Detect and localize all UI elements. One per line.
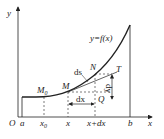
point-n-label: N <box>89 62 97 72</box>
x-axis-label: x <box>147 118 152 128</box>
tick-a-label: a <box>20 118 25 128</box>
curve-label: y=f(x) <box>89 33 113 43</box>
arc-length-diagram: y x O a x0 x x+dx b y=f(x) M0 M N T Q ds… <box>0 0 164 139</box>
tick-x-label: x <box>65 118 70 128</box>
dx-label: dx <box>76 94 86 104</box>
dy-label: dy <box>104 84 114 94</box>
tick-x0-label: x0 <box>39 118 47 129</box>
point-m0-label: M0 <box>36 85 48 96</box>
ds-label: ds <box>74 67 83 77</box>
tick-xdx-label: x+dx <box>86 118 106 128</box>
tick-b-label: b <box>128 118 133 128</box>
ds-leader <box>82 75 88 82</box>
point-t-label: T <box>116 64 122 74</box>
origin-label: O <box>9 118 16 128</box>
point-q-label: Q <box>98 94 105 104</box>
point-m-label: M <box>61 81 70 91</box>
y-axis-label: y <box>6 8 11 18</box>
